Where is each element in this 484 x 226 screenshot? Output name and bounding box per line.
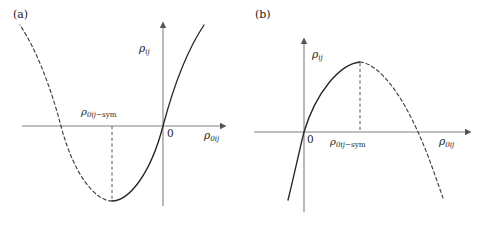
x-axis-label-sub-b: 0ij (445, 140, 454, 149)
panel-a-graphic (0, 0, 242, 226)
x-axis-label-b: ρ0ij (439, 136, 454, 148)
parabola-solid-branch-b (288, 62, 360, 200)
y-axis-label-a: ρij (139, 43, 150, 55)
panel-b: (b) ρij ρ0ij 0 ρ0ij−sym (242, 0, 484, 226)
panel-label-a: (a) (13, 8, 28, 21)
y-axis-label-b: ρij (312, 49, 323, 61)
sym-label-b: ρ0ij−sym (330, 137, 366, 148)
panel-a: (a) ρij ρ0ij 0 ρ0ij−sym (0, 0, 242, 226)
parabola-dashed-branch-b (360, 62, 443, 198)
panel-b-graphic (242, 0, 484, 226)
sym-label-sub-upright-b: sym (351, 140, 366, 149)
figure-container: (a) ρij ρ0ij 0 ρ0ij−sym (0, 0, 484, 226)
sym-label-sub-italic-b: 0ij (336, 140, 345, 149)
y-axis-label-sub-a: ij (145, 47, 150, 56)
panel-label-b: (b) (255, 8, 271, 21)
origin-label-a: 0 (167, 128, 174, 139)
parabola-solid-branch-a (112, 25, 204, 201)
x-axis-label-sub-a: 0ij (210, 134, 219, 143)
sym-label-a: ρ0ij−sym (81, 107, 117, 118)
origin-label-b: 0 (307, 134, 314, 145)
x-axis-label-a: ρ0ij (204, 130, 219, 142)
y-axis-label-sub-b: ij (318, 53, 323, 62)
sym-label-sub-upright-a: sym (102, 110, 117, 119)
sym-label-sub-italic-a: 0ij (87, 110, 96, 119)
